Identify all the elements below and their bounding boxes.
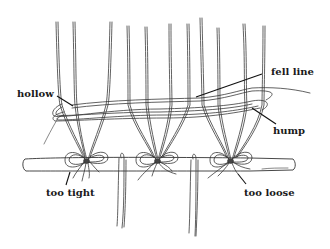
- label-hollow: hollow: [17, 89, 54, 99]
- warp-threads: [56, 18, 265, 160]
- label-too-tight: too tight: [46, 188, 95, 198]
- leader-too-tight: [66, 172, 70, 185]
- label-hump: hump: [273, 126, 305, 136]
- leader-hump: [252, 108, 276, 124]
- label-too-loose: too loose: [244, 188, 295, 198]
- leader-too-loose: [238, 174, 246, 184]
- weft-band: [44, 88, 310, 144]
- label-fell-line: fell line: [271, 67, 314, 77]
